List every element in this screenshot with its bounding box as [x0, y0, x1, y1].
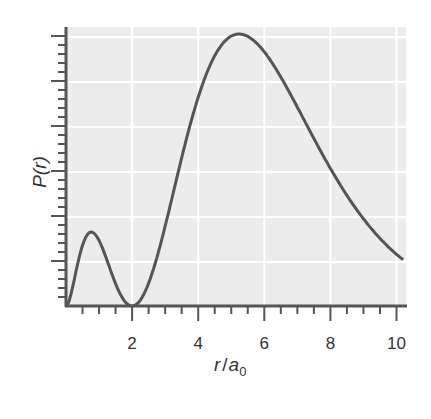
x-tick-label: 8 [326, 334, 335, 353]
plot-area [66, 27, 406, 306]
x-tick-label: 4 [193, 334, 202, 353]
x-tick-labels: 246810 [127, 334, 406, 353]
x-axis-label: r/a0 [214, 354, 246, 379]
y-axis-label: P(r) [29, 156, 50, 188]
radial-distribution-chart: 246810 P(r) r/a0 [0, 0, 431, 419]
x-tick-label: 6 [260, 334, 269, 353]
x-tick-label: 2 [127, 334, 136, 353]
x-tick-label: 10 [387, 334, 406, 353]
